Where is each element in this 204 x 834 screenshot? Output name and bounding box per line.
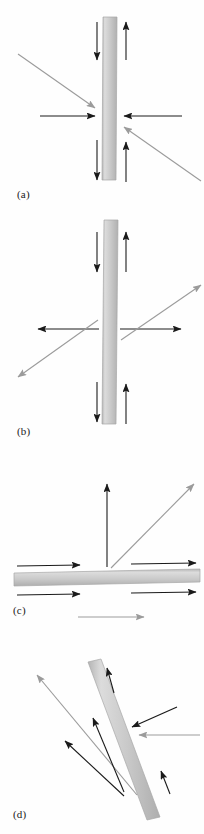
bar-b bbox=[102, 220, 118, 424]
arrow-incoming-dark-upper-right bbox=[132, 707, 177, 727]
panel-d-diagram bbox=[0, 630, 204, 834]
arrow-below-left-right bbox=[17, 594, 80, 595]
bar-c bbox=[14, 569, 200, 586]
panel-d bbox=[0, 630, 204, 834]
panel-c bbox=[0, 430, 204, 630]
arrow-below-right-right bbox=[131, 592, 196, 593]
panel-label-d: (d) bbox=[13, 808, 26, 820]
arrows-c bbox=[17, 484, 196, 617]
panel-a bbox=[0, 0, 204, 210]
arrow-diagonal-up-right bbox=[111, 484, 194, 568]
arrow-surface-bottom bbox=[161, 771, 170, 794]
panel-b bbox=[0, 210, 204, 430]
bar-a bbox=[102, 17, 117, 180]
panel-label-b: (b) bbox=[17, 425, 30, 437]
arrow-lower-right-diagonal-in bbox=[124, 127, 201, 181]
panel-c-diagram bbox=[0, 430, 204, 630]
arrow-upper-right-diagonal-out bbox=[121, 285, 201, 340]
panel-b-diagram bbox=[0, 210, 204, 430]
panel-a-diagram bbox=[0, 0, 204, 210]
arrow-above-left-right bbox=[17, 565, 80, 566]
panel-label-c: (c) bbox=[13, 604, 26, 616]
panel-label-a: (a) bbox=[17, 188, 30, 200]
arrow-above-right-right bbox=[131, 563, 196, 564]
figure-container: (a) (b) (c) (d) bbox=[0, 0, 204, 834]
arrow-upper-left-diagonal-in bbox=[18, 54, 95, 108]
